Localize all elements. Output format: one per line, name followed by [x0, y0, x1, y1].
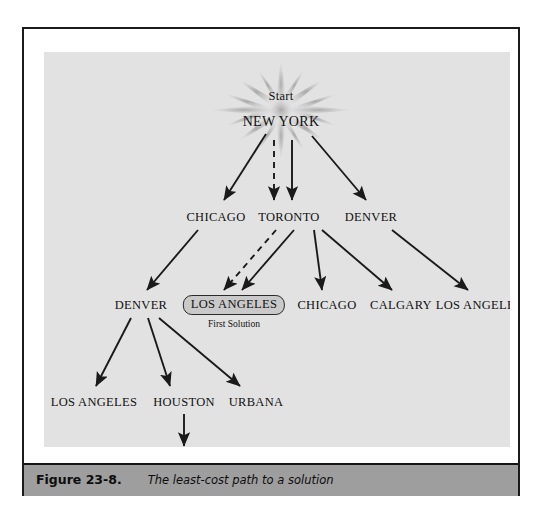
start-label: Start: [268, 89, 293, 104]
edge-denver2-houston: [148, 318, 170, 386]
starburst-icon: [207, 58, 355, 162]
node-los-angeles-level3[interactable]: LOS ANGELES: [51, 395, 137, 410]
edge-newyork-denver: [312, 136, 366, 200]
node-calgary[interactable]: CALGARY: [370, 298, 432, 313]
first-solution-note: First Solution: [208, 319, 260, 329]
figure-number: Figure 23-8.: [36, 472, 122, 487]
node-new-york[interactable]: NEW YORK: [243, 114, 320, 130]
edge-chicago-denver: [147, 230, 198, 290]
search-tree-diagram: [44, 52, 510, 447]
node-houston[interactable]: HOUSTON: [153, 395, 215, 410]
node-urbana[interactable]: URBANA: [229, 395, 284, 410]
node-denver-level2[interactable]: DENVER: [115, 298, 168, 313]
edge-denver-losangeles: [392, 230, 468, 290]
figure-caption: Figure 23-8. The least-cost path to a so…: [36, 472, 333, 487]
figure-frame: Start NEW YORK CHICAGO TORONTO DENVER DE…: [22, 27, 520, 496]
edge-denver2-losangeles3: [96, 318, 131, 386]
node-chicago-level2[interactable]: CHICAGO: [297, 298, 356, 313]
figure-caption-text: The least-cost path to a solution: [148, 473, 334, 487]
node-los-angeles-solution[interactable]: LOS ANGELES: [183, 295, 285, 315]
node-denver-level1[interactable]: DENVER: [345, 210, 398, 225]
figure-page: Start NEW YORK CHICAGO TORONTO DENVER DE…: [0, 0, 549, 525]
node-toronto[interactable]: TORONTO: [258, 210, 319, 225]
node-los-angeles-right[interactable]: LOS ANGELES: [436, 298, 510, 313]
illustration-panel: Start NEW YORK CHICAGO TORONTO DENVER DE…: [44, 52, 510, 447]
figure-caption-bar: Figure 23-8. The least-cost path to a so…: [24, 463, 518, 496]
node-chicago-level1[interactable]: CHICAGO: [186, 210, 245, 225]
edge-toronto-calgary: [322, 230, 392, 290]
edge-toronto-chicago: [314, 230, 322, 290]
edge-newyork-chicago: [224, 134, 266, 200]
